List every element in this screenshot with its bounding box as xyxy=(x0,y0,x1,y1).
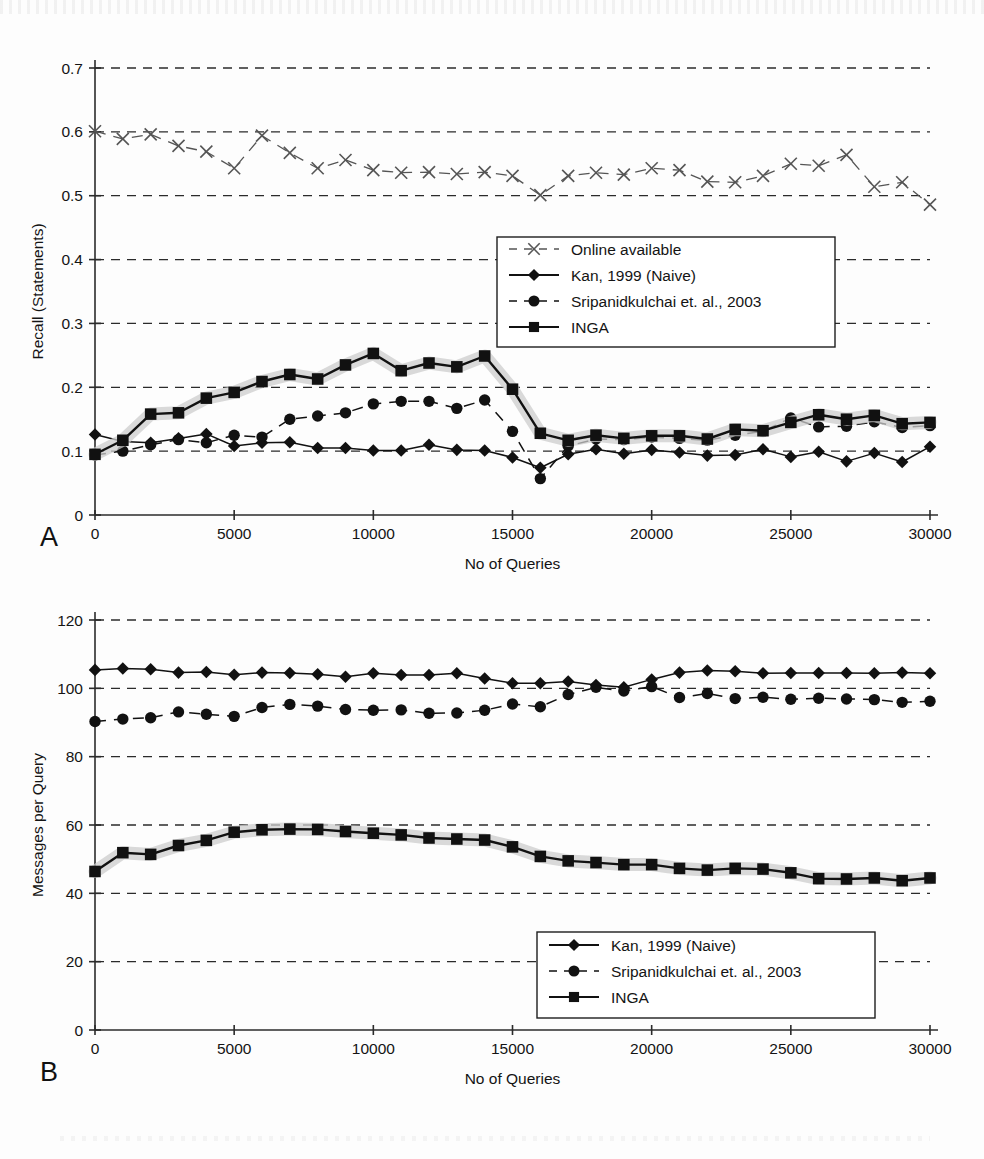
marker-square xyxy=(507,383,519,395)
marker-square xyxy=(451,361,463,373)
marker-circle xyxy=(145,439,156,450)
y-tick-label: 0 xyxy=(74,1022,83,1039)
x-tick-label: 0 xyxy=(91,525,100,542)
marker-square xyxy=(479,834,491,846)
x-tick-label: 10000 xyxy=(352,1040,395,1057)
marker-square xyxy=(284,823,296,835)
y-tick-label: 0.1 xyxy=(61,443,83,460)
marker-circle xyxy=(841,693,852,704)
marker-diamond xyxy=(172,666,185,679)
marker-diamond xyxy=(367,667,380,680)
marker-diamond xyxy=(144,663,157,676)
marker-circle xyxy=(590,682,601,693)
marker-x xyxy=(340,154,352,166)
marker-circle xyxy=(451,707,462,718)
marker-diamond xyxy=(311,668,324,681)
x-tick-label: 30000 xyxy=(908,525,951,542)
marker-x xyxy=(284,147,296,159)
legend: Kan, 1999 (Naive)Sripanidkulchai et. al.… xyxy=(537,932,875,1018)
marker-square xyxy=(869,410,881,422)
marker-circle xyxy=(507,426,518,437)
marker-diamond xyxy=(757,443,770,456)
marker-square xyxy=(89,449,101,461)
panel-label-a: A xyxy=(40,522,58,553)
series-inga xyxy=(89,348,936,460)
marker-diamond xyxy=(924,440,937,453)
marker-square xyxy=(869,872,881,884)
marker-square xyxy=(173,407,185,419)
marker-circle xyxy=(702,688,713,699)
marker-circle xyxy=(479,394,490,405)
marker-diamond xyxy=(868,667,881,680)
marker-x xyxy=(228,162,240,174)
x-tick-label: 15000 xyxy=(491,525,534,542)
legend: Online availableKan, 1999 (Naive)Sripani… xyxy=(497,237,835,347)
marker-x xyxy=(813,160,825,172)
x-tick-label: 15000 xyxy=(491,1040,534,1057)
chart-panel-a: 00.10.20.30.40.50.60.7050001000015000200… xyxy=(0,0,984,585)
marker-circle xyxy=(368,705,379,716)
marker-diamond xyxy=(562,675,575,688)
marker-diamond xyxy=(534,461,547,474)
series-line xyxy=(95,131,930,205)
x-tick-label: 30000 xyxy=(908,1040,951,1057)
marker-circle xyxy=(228,429,239,440)
marker-square xyxy=(813,873,825,885)
marker-square xyxy=(117,435,129,447)
marker-diamond xyxy=(451,667,464,680)
marker-square xyxy=(451,833,463,845)
marker-circle xyxy=(395,396,406,407)
marker-square xyxy=(145,408,157,420)
marker-circle xyxy=(89,716,100,727)
marker-circle xyxy=(395,704,406,715)
marker-circle xyxy=(924,696,935,707)
marker-diamond xyxy=(423,669,436,682)
marker-circle xyxy=(340,704,351,715)
marker-circle xyxy=(869,694,880,705)
marker-diamond xyxy=(785,667,798,680)
marker-square xyxy=(535,427,547,439)
marker-diamond xyxy=(311,442,324,455)
y-axis-title: Messages per Query xyxy=(29,753,46,897)
marker-x xyxy=(200,146,212,158)
marker-diamond xyxy=(478,444,491,457)
x-tick-label: 10000 xyxy=(352,525,395,542)
marker-square xyxy=(924,872,936,884)
marker-diamond xyxy=(89,428,102,441)
marker-square xyxy=(729,424,741,436)
marker-square xyxy=(618,433,630,445)
marker-diamond xyxy=(618,447,631,460)
marker-square xyxy=(785,867,797,879)
y-tick-label: 0.7 xyxy=(61,60,83,77)
marker-diamond xyxy=(89,664,102,677)
panel-label-b: B xyxy=(40,1057,58,1088)
marker-square xyxy=(896,875,908,887)
x-tick-label: 20000 xyxy=(630,525,673,542)
marker-square xyxy=(562,435,574,447)
marker-circle xyxy=(813,693,824,704)
marker-diamond xyxy=(339,670,352,683)
marker-square xyxy=(674,863,686,875)
y-tick-label: 0.2 xyxy=(61,379,83,396)
y-tick-label: 0.3 xyxy=(61,315,83,332)
marker-square xyxy=(757,425,769,437)
marker-square xyxy=(562,855,574,867)
marker-circle xyxy=(145,712,156,723)
marker-square xyxy=(479,350,491,362)
marker-diamond xyxy=(840,667,853,680)
y-tick-label: 100 xyxy=(57,680,83,697)
legend-label: INGA xyxy=(611,989,650,1006)
marker-circle xyxy=(562,689,573,700)
marker-square xyxy=(368,348,380,360)
marker-square xyxy=(841,413,853,425)
legend-label: Sripanidkulchai et. al., 2003 xyxy=(571,293,761,310)
marker-square xyxy=(896,418,908,430)
marker-circle xyxy=(117,713,128,724)
marker-diamond xyxy=(785,451,798,464)
marker-x xyxy=(841,149,853,161)
marker-diamond xyxy=(478,672,491,685)
marker-square xyxy=(256,824,268,836)
marker-diamond xyxy=(868,447,881,460)
marker-x xyxy=(145,128,157,140)
marker-circle xyxy=(423,396,434,407)
